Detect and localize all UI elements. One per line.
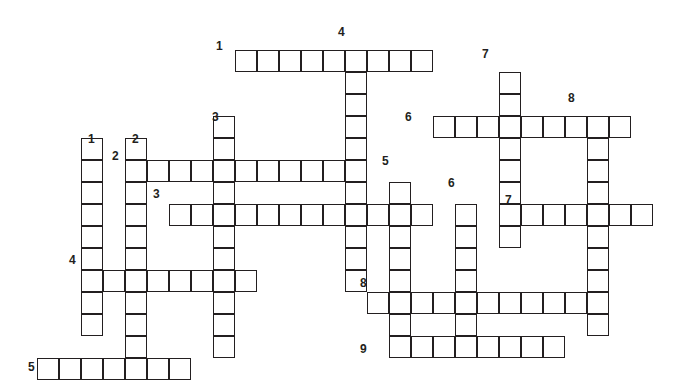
crossword-cell[interactable] — [587, 160, 609, 182]
crossword-cell[interactable] — [169, 270, 191, 292]
crossword-cell[interactable] — [455, 226, 477, 248]
crossword-cell[interactable] — [389, 314, 411, 336]
crossword-cell[interactable] — [521, 292, 543, 314]
crossword-cell[interactable] — [213, 182, 235, 204]
crossword-cell[interactable] — [345, 116, 367, 138]
crossword-cell[interactable] — [433, 292, 455, 314]
crossword-cell[interactable] — [345, 138, 367, 160]
crossword-cell[interactable] — [367, 50, 389, 72]
crossword-cell[interactable] — [477, 292, 499, 314]
crossword-cell[interactable] — [125, 314, 147, 336]
crossword-cell[interactable] — [543, 116, 565, 138]
crossword-cell[interactable] — [147, 270, 169, 292]
crossword-cell[interactable] — [213, 292, 235, 314]
crossword-cell[interactable] — [587, 314, 609, 336]
crossword-cell[interactable] — [389, 50, 411, 72]
crossword-cell[interactable] — [433, 116, 455, 138]
crossword-cell[interactable] — [455, 292, 477, 314]
crossword-cell[interactable] — [191, 204, 213, 226]
crossword-cell[interactable] — [455, 336, 477, 358]
crossword-cell[interactable] — [345, 72, 367, 94]
crossword-cell[interactable] — [631, 204, 653, 226]
crossword-cell[interactable] — [257, 204, 279, 226]
crossword-cell[interactable] — [345, 50, 367, 72]
crossword-cell[interactable] — [279, 204, 301, 226]
crossword-cell[interactable] — [455, 204, 477, 226]
crossword-cell[interactable] — [499, 116, 521, 138]
crossword-cell[interactable] — [213, 270, 235, 292]
crossword-cell[interactable] — [477, 336, 499, 358]
crossword-cell[interactable] — [81, 204, 103, 226]
crossword-cell[interactable] — [609, 204, 631, 226]
crossword-cell[interactable] — [345, 94, 367, 116]
crossword-cell[interactable] — [301, 50, 323, 72]
crossword-cell[interactable] — [323, 50, 345, 72]
crossword-cell[interactable] — [389, 292, 411, 314]
crossword-cell[interactable] — [389, 270, 411, 292]
crossword-cell[interactable] — [389, 336, 411, 358]
crossword-cell[interactable] — [477, 116, 499, 138]
crossword-cell[interactable] — [521, 204, 543, 226]
crossword-cell[interactable] — [81, 182, 103, 204]
crossword-cell[interactable] — [235, 270, 257, 292]
crossword-cell[interactable] — [213, 314, 235, 336]
crossword-cell[interactable] — [301, 160, 323, 182]
crossword-cell[interactable] — [389, 182, 411, 204]
crossword-cell[interactable] — [125, 182, 147, 204]
crossword-cell[interactable] — [587, 116, 609, 138]
crossword-cell[interactable] — [345, 248, 367, 270]
crossword-cell[interactable] — [81, 358, 103, 380]
crossword-cell[interactable] — [345, 226, 367, 248]
crossword-cell[interactable] — [565, 116, 587, 138]
crossword-cell[interactable] — [257, 50, 279, 72]
crossword-cell[interactable] — [213, 336, 235, 358]
crossword-cell[interactable] — [213, 248, 235, 270]
crossword-cell[interactable] — [213, 226, 235, 248]
crossword-cell[interactable] — [235, 50, 257, 72]
crossword-cell[interactable] — [455, 270, 477, 292]
crossword-cell[interactable] — [81, 270, 103, 292]
crossword-cell[interactable] — [565, 292, 587, 314]
crossword-cell[interactable] — [587, 204, 609, 226]
crossword-cell[interactable] — [389, 248, 411, 270]
crossword-cell[interactable] — [37, 358, 59, 380]
crossword-cell[interactable] — [81, 226, 103, 248]
crossword-cell[interactable] — [169, 204, 191, 226]
crossword-cell[interactable] — [499, 204, 521, 226]
crossword-cell[interactable] — [521, 336, 543, 358]
crossword-cell[interactable] — [565, 204, 587, 226]
crossword-cell[interactable] — [499, 226, 521, 248]
crossword-cell[interactable] — [103, 358, 125, 380]
crossword-cell[interactable] — [609, 116, 631, 138]
crossword-cell[interactable] — [125, 358, 147, 380]
crossword-cell[interactable] — [147, 160, 169, 182]
crossword-cell[interactable] — [499, 292, 521, 314]
crossword-cell[interactable] — [411, 50, 433, 72]
crossword-cell[interactable] — [411, 292, 433, 314]
crossword-cell[interactable] — [411, 204, 433, 226]
crossword-cell[interactable] — [367, 292, 389, 314]
crossword-cell[interactable] — [125, 204, 147, 226]
crossword-cell[interactable] — [235, 204, 257, 226]
crossword-cell[interactable] — [125, 248, 147, 270]
crossword-cell[interactable] — [433, 336, 455, 358]
crossword-cell[interactable] — [191, 160, 213, 182]
crossword-cell[interactable] — [213, 160, 235, 182]
crossword-cell[interactable] — [213, 204, 235, 226]
crossword-cell[interactable] — [345, 182, 367, 204]
crossword-cell[interactable] — [543, 336, 565, 358]
crossword-cell[interactable] — [499, 94, 521, 116]
crossword-cell[interactable] — [587, 270, 609, 292]
crossword-cell[interactable] — [147, 358, 169, 380]
crossword-cell[interactable] — [191, 270, 213, 292]
crossword-cell[interactable] — [455, 248, 477, 270]
crossword-cell[interactable] — [257, 160, 279, 182]
crossword-cell[interactable] — [81, 292, 103, 314]
crossword-cell[interactable] — [543, 204, 565, 226]
crossword-cell[interactable] — [301, 204, 323, 226]
crossword-cell[interactable] — [125, 226, 147, 248]
crossword-cell[interactable] — [367, 204, 389, 226]
crossword-cell[interactable] — [389, 204, 411, 226]
crossword-cell[interactable] — [81, 248, 103, 270]
crossword-cell[interactable] — [587, 182, 609, 204]
